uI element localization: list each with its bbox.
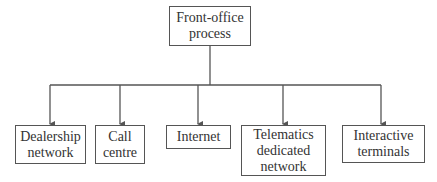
node-label: Interactive terminals: [354, 128, 414, 160]
node-call-centre: Call centre: [95, 125, 145, 164]
node-label: Dealership network: [20, 129, 81, 161]
node-interactive-terminals: Interactive terminals: [342, 125, 425, 163]
node-telematics-dedicated-network: Telematics dedicated network: [241, 125, 326, 176]
root-node-front-office-process: Front-office process: [169, 6, 251, 46]
node-dealership-network: Dealership network: [15, 125, 86, 164]
node-label: Call centre: [103, 129, 137, 161]
node-internet: Internet: [166, 125, 231, 149]
node-label: Telematics dedicated network: [253, 127, 313, 175]
root-node-label: Front-office process: [176, 10, 243, 42]
node-label: Internet: [177, 129, 221, 145]
